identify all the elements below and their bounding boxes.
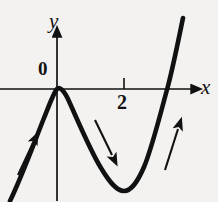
cubic-curve xyxy=(10,18,183,201)
direction-arrow-right-upward xyxy=(165,129,178,170)
x-tick-label-2: 2 xyxy=(117,92,127,112)
y-axis-label: y xyxy=(49,11,58,32)
x-axis-label: x xyxy=(201,77,210,98)
direction-arrow-middle-downward xyxy=(95,120,112,155)
origin-label: 0 xyxy=(38,59,48,78)
figure-container: y x 0 2 xyxy=(0,0,218,202)
graph-canvas xyxy=(0,0,218,202)
